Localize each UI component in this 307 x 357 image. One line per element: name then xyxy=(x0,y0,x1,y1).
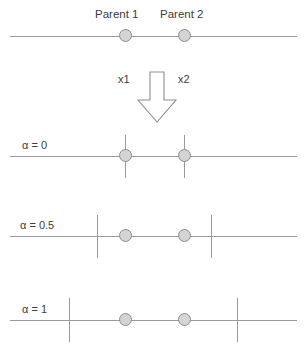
down-arrow-icon xyxy=(136,70,178,124)
x2-label: x2 xyxy=(178,73,190,86)
parent1-label: Parent 1 xyxy=(95,8,138,21)
parent2-label: Parent 2 xyxy=(160,8,203,21)
alpha-0-node-x1 xyxy=(119,149,132,162)
alpha-1-tick-upper xyxy=(237,298,238,342)
alpha-1-node-x2 xyxy=(178,313,191,326)
alpha-05-tick-lower xyxy=(97,215,98,258)
diagram-canvas: Parent 1 Parent 2 x1 x2 α = 0 α = 0.5 α … xyxy=(0,0,307,357)
parent2-node xyxy=(178,29,191,42)
alpha-0-node-x2 xyxy=(178,149,191,162)
alpha-05-node-x2 xyxy=(178,229,191,242)
alpha-05-node-x1 xyxy=(119,229,132,242)
x1-label: x1 xyxy=(118,73,130,86)
alpha-1-node-x1 xyxy=(119,313,132,326)
alpha-1-axis-line xyxy=(10,320,297,321)
alpha-05-label: α = 0.5 xyxy=(20,219,54,232)
alpha-0-label: α = 0 xyxy=(22,139,47,152)
alpha-1-label: α = 1 xyxy=(22,303,47,316)
parent1-node xyxy=(119,29,132,42)
alpha-05-axis-line xyxy=(10,236,297,237)
parent-axis-line xyxy=(10,36,297,37)
alpha-05-tick-upper xyxy=(211,215,212,258)
alpha-1-tick-lower xyxy=(69,298,70,342)
alpha-0-axis-line xyxy=(10,156,297,157)
